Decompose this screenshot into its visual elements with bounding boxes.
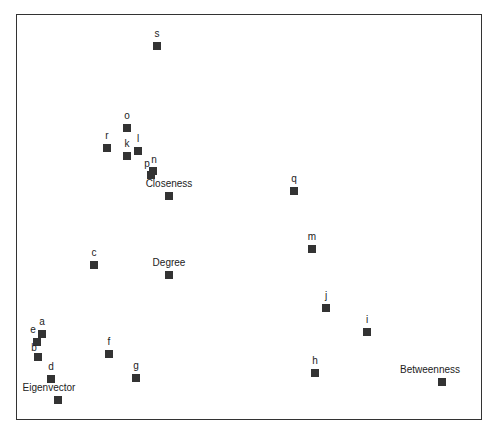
data-point-marker (165, 271, 173, 279)
plot-frame (16, 14, 482, 420)
data-point-marker (38, 330, 46, 338)
data-point-marker (134, 147, 142, 155)
data-point-marker (363, 328, 371, 336)
data-point-marker (311, 369, 319, 377)
data-point-label: s (155, 29, 160, 39)
data-point-marker (54, 396, 62, 404)
data-point-marker (290, 187, 298, 195)
data-point-label: b (31, 343, 37, 353)
data-point-label: d (48, 362, 54, 372)
data-point-label: a (39, 317, 45, 327)
data-point-label: q (291, 174, 297, 184)
data-point-label: h (312, 356, 318, 366)
data-point-label: j (325, 291, 327, 301)
data-point-label: Betweenness (400, 365, 460, 375)
data-point-label: o (124, 111, 130, 121)
data-point-label: n (151, 155, 157, 165)
data-point-marker (165, 192, 173, 200)
data-point-marker (153, 42, 161, 50)
data-point-marker (123, 152, 131, 160)
data-point-label: e (30, 325, 36, 335)
data-point-label: g (133, 361, 139, 371)
data-point-marker (322, 304, 330, 312)
data-point-label: i (366, 315, 368, 325)
data-point-marker (308, 245, 316, 253)
data-point-label: c (92, 248, 97, 258)
data-point-marker (132, 374, 140, 382)
data-point-label: p (144, 159, 150, 169)
data-point-marker (105, 350, 113, 358)
data-point-label: f (108, 337, 111, 347)
data-point-label: m (308, 232, 316, 242)
data-point-marker (90, 261, 98, 269)
data-point-marker (34, 353, 42, 361)
data-point-label: k (125, 139, 130, 149)
data-point-label: Degree (153, 258, 186, 268)
data-point-marker (438, 378, 446, 386)
data-point-marker (103, 144, 111, 152)
data-point-marker (123, 124, 131, 132)
data-point-label: Closeness (146, 179, 193, 189)
data-point-label: Eigenvector (23, 383, 76, 393)
data-point-label: l (137, 134, 139, 144)
data-point-label: r (105, 131, 108, 141)
